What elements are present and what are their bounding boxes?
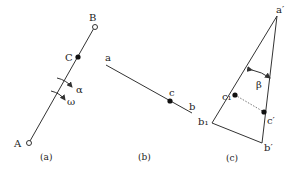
- label-omega: ω: [67, 96, 75, 107]
- line-b1-b-prime: [212, 123, 262, 143]
- label-a-lower: a: [105, 52, 111, 63]
- line-ab: [106, 65, 192, 113]
- caption-a: (a): [40, 152, 52, 162]
- point-c-marker: [75, 54, 80, 59]
- rod-ab: [30, 28, 94, 141]
- label-a: A: [13, 138, 22, 149]
- caption-b: (b): [138, 152, 151, 162]
- label-beta: β: [256, 79, 262, 90]
- caption-c: (c): [226, 153, 238, 163]
- label-b1: b₁: [198, 116, 208, 127]
- panel-a: B C A α ω (a): [13, 12, 98, 162]
- dotted-line-c1-c-prime: [235, 95, 264, 112]
- label-c-lower: c: [169, 87, 175, 98]
- label-c1: c₁: [222, 91, 232, 102]
- label-b-lower: b: [189, 101, 195, 112]
- diagram-canvas: B C A α ω (a) a c b (b) β a′ c₁ c′ b₁ b′…: [0, 0, 291, 173]
- label-a-prime: a′: [276, 4, 285, 15]
- label-alpha: α: [76, 84, 83, 95]
- point-a-marker: [27, 141, 32, 146]
- panel-b: a c b (b): [105, 52, 195, 162]
- point-b-marker: [93, 25, 98, 30]
- line-a-prime-b1: [212, 16, 277, 123]
- point-c-marker: [167, 98, 172, 103]
- label-c-prime: c′: [267, 115, 276, 126]
- point-c-prime-marker: [261, 109, 266, 114]
- panel-c: β a′ c₁ c′ b₁ b′ (c): [198, 4, 285, 163]
- label-b-prime: b′: [264, 142, 273, 153]
- point-c1-marker: [232, 92, 237, 97]
- label-b: B: [89, 12, 96, 23]
- beta-arrow-icon: [252, 70, 270, 78]
- label-c: C: [65, 52, 73, 63]
